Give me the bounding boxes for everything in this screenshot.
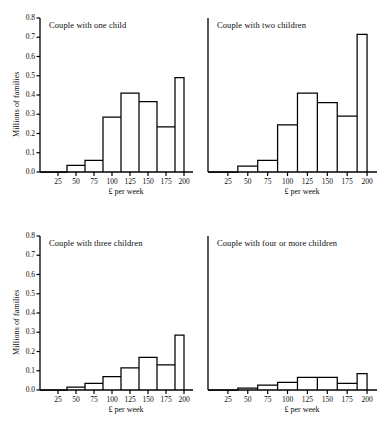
plot-area-couple-four-or-more-children	[0, 0, 389, 430]
x-tick-label: 200	[353, 395, 381, 404]
histogram-bars	[208, 374, 367, 390]
histogram-figure: 0.00.10.20.30.40.50.60.70.82550751001251…	[0, 0, 389, 430]
panel-title-couple-four-or-more-children: Couple with four or more children	[217, 238, 337, 248]
chart-panel-couple-four-or-more-children: 255075100125150175200Couple with four or…	[0, 0, 389, 430]
x-axis-label: £ per week	[285, 405, 320, 414]
